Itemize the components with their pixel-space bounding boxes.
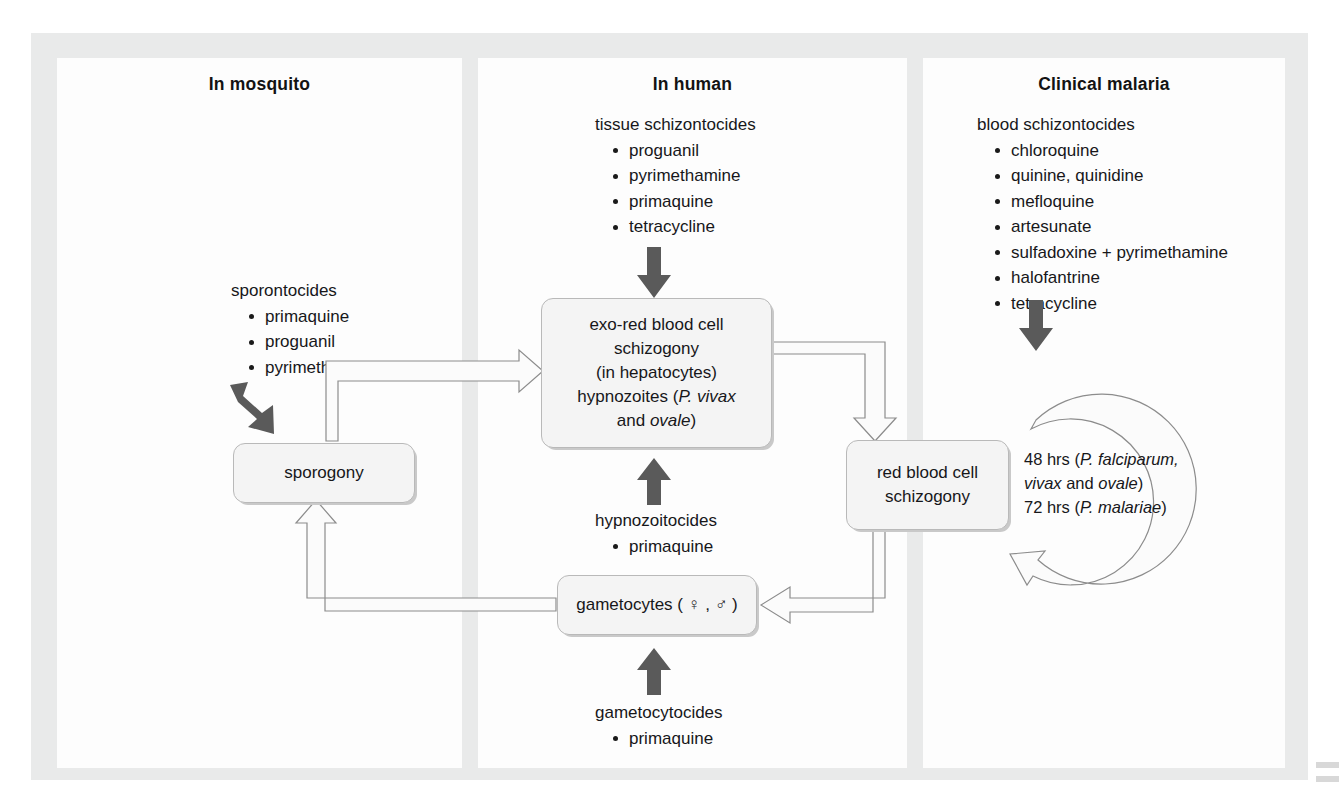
node-exorbc-line1: exo-red blood cell bbox=[577, 313, 735, 337]
node-sporogony-label: sporogony bbox=[284, 461, 363, 485]
panel-title-human: In human bbox=[478, 74, 907, 95]
dark-arrow-gametocytocides bbox=[636, 648, 672, 696]
panel-title-mosquito: In mosquito bbox=[57, 74, 462, 95]
list-item: artesunate bbox=[994, 214, 1228, 240]
list-item: halofantrine bbox=[994, 265, 1228, 291]
list-item: chloroquine bbox=[994, 138, 1228, 164]
list-item: proguanil bbox=[612, 138, 756, 164]
dark-arrow-hypnozoitocides bbox=[636, 458, 672, 506]
list-item: primaquine bbox=[612, 726, 723, 752]
druglist-head-tissue-schizontocides: tissue schizontocides bbox=[595, 112, 756, 138]
cycle-line-3: 72 hrs (P. malariae) bbox=[1024, 495, 1179, 519]
list-item: sulfadoxine + pyrimethamine bbox=[994, 240, 1228, 266]
node-exorbc-line5: and ovale) bbox=[577, 409, 735, 433]
list-item: primaquine bbox=[612, 189, 756, 215]
dark-arrow-tissue-schizontocides bbox=[636, 247, 672, 299]
list-item: primaquine bbox=[248, 304, 377, 330]
druglist-head-sporontocides: sporontocides bbox=[231, 278, 377, 304]
druglist-items-blood-schizontocides: chloroquine quinine, quinidine mefloquin… bbox=[977, 138, 1228, 317]
druglist-sporontocides: sporontocides primaquine proguanil pyrim… bbox=[231, 278, 377, 380]
node-exorbc-line3: (in hepatocytes) bbox=[577, 361, 735, 385]
druglist-tissue-schizontocides: tissue schizontocides proguanil pyrimeth… bbox=[595, 112, 756, 240]
druglist-head-hypnozoitocides: hypnozoitocides bbox=[595, 508, 717, 534]
druglist-head-gametocytocides: gametocytocides bbox=[595, 700, 723, 726]
dark-arrow-sporontocides bbox=[224, 379, 284, 449]
node-rbc-line1: red blood cell bbox=[877, 461, 978, 485]
druglist-items-gametocytocides: primaquine bbox=[595, 726, 723, 752]
node-exorbc-line4: hypnozoites (P. vivax bbox=[577, 385, 735, 409]
node-gametocytes-label: gametocytes ( ♀ , ♂ ) bbox=[576, 593, 738, 617]
druglist-items-sporontocides: primaquine proguanil pyrimethamine bbox=[231, 304, 377, 381]
druglist-gametocytocides: gametocytocides primaquine bbox=[595, 700, 723, 751]
list-item: pyrimethamine bbox=[612, 163, 756, 189]
druglist-blood-schizontocides: blood schizontocides chloroquine quinine… bbox=[977, 112, 1228, 316]
panel-title-clinical: Clinical malaria bbox=[923, 74, 1285, 95]
node-red-blood-cell-schizogony[interactable]: red blood cell schizogony bbox=[846, 440, 1009, 530]
list-item: tetracycline bbox=[612, 214, 756, 240]
dark-arrow-blood-schizontocides bbox=[1018, 300, 1054, 352]
list-item: quinine, quinidine bbox=[994, 163, 1228, 189]
cycle-line-1: 48 hrs (P. falciparum, bbox=[1024, 447, 1179, 471]
figure-canvas: In mosquito In human Clinical malaria sp… bbox=[0, 0, 1339, 811]
druglist-head-blood-schizontocides: blood schizontocides bbox=[977, 112, 1228, 138]
node-exo-red-blood-cell-schizogony[interactable]: exo-red blood cell schizogony (in hepato… bbox=[541, 298, 772, 448]
page-edge-mark-1 bbox=[1316, 762, 1339, 768]
list-item: mefloquine bbox=[994, 189, 1228, 215]
druglist-items-hypnozoitocides: primaquine bbox=[595, 534, 717, 560]
cycle-line-2: vivax and ovale) bbox=[1024, 471, 1179, 495]
page-edge-mark-2 bbox=[1316, 776, 1339, 782]
cycle-duration-label: 48 hrs (P. falciparum, vivax and ovale) … bbox=[1024, 447, 1179, 519]
list-item: pyrimethamine bbox=[248, 355, 377, 381]
druglist-items-tissue-schizontocides: proguanil pyrimethamine primaquine tetra… bbox=[595, 138, 756, 240]
list-item: proguanil bbox=[248, 329, 377, 355]
node-sporogony[interactable]: sporogony bbox=[233, 443, 415, 503]
node-exorbc-line2: schizogony bbox=[577, 337, 735, 361]
node-rbc-line2: schizogony bbox=[877, 485, 978, 509]
list-item: primaquine bbox=[612, 534, 717, 560]
node-gametocytes[interactable]: gametocytes ( ♀ , ♂ ) bbox=[557, 575, 757, 635]
druglist-hypnozoitocides: hypnozoitocides primaquine bbox=[595, 508, 717, 559]
